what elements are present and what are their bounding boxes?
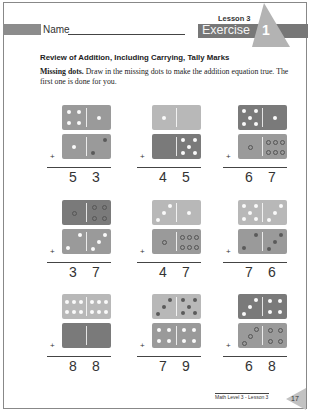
sum-tens-digit: 7 [245, 264, 253, 280]
sum-rule [223, 167, 287, 168]
problem-4: +37 [47, 200, 127, 290]
domino-top[interactable] [152, 294, 201, 319]
domino-half-right [177, 323, 201, 348]
domino-top[interactable] [238, 105, 287, 130]
sum-ones-digit: 5 [182, 169, 190, 185]
domino-half-right [87, 200, 111, 225]
domino-dot [90, 310, 94, 314]
domino-half-left [238, 294, 262, 319]
domino-half-left [62, 323, 86, 348]
domino-dot [97, 116, 101, 120]
domino-half-left [62, 294, 86, 319]
lesson-label: Lesson 3 [218, 14, 251, 23]
domino-bottom[interactable] [238, 323, 287, 348]
domino-top[interactable] [238, 200, 287, 225]
sum-ones-digit: 7 [182, 264, 190, 280]
domino-half-left [152, 200, 176, 225]
domino-bottom[interactable] [62, 134, 111, 159]
domino-dot [266, 140, 271, 145]
domino-dot [103, 233, 107, 237]
sum-rule [47, 356, 111, 357]
domino-dot [72, 211, 77, 216]
domino-bottom[interactable] [238, 229, 287, 254]
domino-dot [280, 140, 285, 145]
domino-top[interactable] [238, 294, 287, 319]
domino-top[interactable] [62, 105, 111, 130]
domino-dot [278, 299, 282, 303]
domino-dot [242, 109, 246, 113]
sum-ones-digit: 7 [92, 264, 100, 280]
domino-bottom[interactable] [62, 323, 111, 348]
domino-dot [248, 116, 252, 120]
problem-2: +45 [137, 105, 217, 195]
problem-1: +53 [47, 105, 127, 195]
sum-tens-digit: 6 [245, 358, 253, 374]
domino-half-right [177, 200, 201, 225]
sum-rule [137, 262, 201, 263]
domino-dot [167, 328, 171, 332]
domino-half-right [87, 294, 111, 319]
domino-dot [162, 240, 167, 245]
domino-dot [77, 110, 81, 114]
domino-dot [254, 233, 258, 237]
sum-tens-digit: 6 [245, 169, 253, 185]
domino-dot [103, 138, 107, 142]
domino-dot [90, 300, 94, 304]
domino-half-left [152, 323, 176, 348]
domino-half-left [238, 105, 262, 130]
domino-half-left [238, 200, 262, 225]
domino-dot [180, 235, 185, 240]
domino-dot [187, 235, 192, 240]
domino-dot [92, 216, 97, 221]
sum-ones-digit: 6 [268, 264, 276, 280]
domino-dot [65, 300, 69, 304]
domino-bottom[interactable] [152, 323, 201, 348]
domino-dot [273, 211, 277, 215]
domino-dot [187, 145, 191, 149]
domino-dot [162, 211, 166, 215]
domino-dot [242, 246, 246, 250]
domino-bottom[interactable] [62, 229, 111, 254]
domino-top[interactable] [152, 105, 201, 130]
name-field[interactable] [68, 34, 185, 35]
domino-half-left [152, 105, 176, 130]
sum-tens-digit: 5 [69, 169, 77, 185]
domino-dot [242, 217, 246, 221]
domino-dot [181, 298, 185, 302]
domino-dot [194, 245, 199, 250]
domino-dot [273, 116, 277, 120]
domino-dot [72, 300, 76, 304]
domino-half-left [238, 323, 262, 348]
domino-dot [278, 310, 282, 314]
sum-ones-digit: 8 [92, 358, 100, 374]
domino-top[interactable] [152, 200, 201, 225]
domino-bottom[interactable] [152, 134, 201, 159]
sum-rule [223, 356, 287, 357]
domino-half-left [62, 229, 86, 254]
problem-5: +47 [137, 200, 217, 290]
domino-top[interactable] [62, 200, 111, 225]
plus-sign: + [140, 341, 145, 350]
sum-rule [137, 167, 201, 168]
domino-bottom[interactable] [152, 229, 201, 254]
domino-bottom[interactable] [238, 134, 287, 159]
domino-dot [254, 204, 258, 208]
domino-dot [267, 247, 271, 251]
domino-dot [97, 240, 101, 244]
domino-half-left [238, 134, 262, 159]
domino-half-right [177, 229, 201, 254]
domino-dot [192, 339, 196, 343]
plus-sign: + [226, 247, 231, 256]
section-title: Review of Addition, Including Carrying, … [40, 53, 229, 62]
domino-half-left [238, 229, 262, 254]
domino-half-right [177, 134, 201, 159]
name-bar-decoration [3, 24, 41, 35]
domino-dot [242, 204, 246, 208]
sum-tens-digit: 4 [159, 169, 167, 185]
domino-dot [102, 216, 107, 221]
domino-dot [278, 328, 283, 333]
domino-dot [97, 310, 101, 314]
domino-dot [193, 151, 197, 155]
domino-top[interactable] [62, 294, 111, 319]
domino-dot [273, 140, 278, 145]
